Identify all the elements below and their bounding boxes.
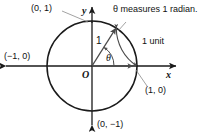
point-label-left: (−1, 0): [4, 52, 30, 61]
origin-label: O: [82, 70, 89, 80]
leader-line-caption: [118, 22, 126, 31]
point-label-bottom: (0, −1): [97, 120, 123, 129]
x-axis-label: x: [166, 70, 171, 80]
terminal-side-radius-vector: [92, 28, 116, 66]
theta-label: θ: [106, 53, 111, 63]
leader-line-right-point: [136, 70, 147, 86]
arc-length-label: 1 unit: [142, 37, 164, 46]
arc-length-indicator: [116, 28, 137, 66]
y-axis-label: y: [82, 6, 86, 16]
diagram-canvas: [0, 0, 201, 134]
unit-circle-radian-diagram: θ measures 1 radian. (0, 1) (−1, 0) (1, …: [0, 0, 201, 134]
caption-theta-measures: θ measures 1 radian.: [113, 5, 198, 14]
point-label-right: (1, 0): [145, 86, 166, 95]
point-label-top: (0, 1): [31, 4, 52, 13]
radius-length-label: 1: [96, 36, 102, 46]
